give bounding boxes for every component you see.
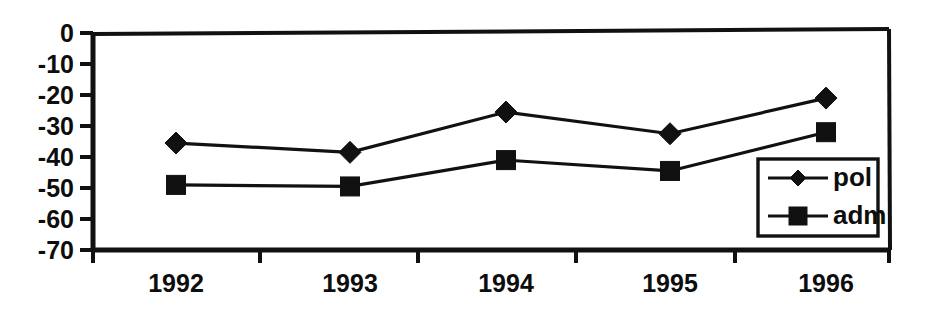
square-icon — [789, 207, 807, 225]
y-tick-label-2: -20 — [38, 81, 74, 109]
legend-label-adm: adm — [833, 200, 886, 230]
y-tick-label-3: -30 — [38, 112, 74, 140]
line-chart: 0 -10 -20 -30 -40 -50 -60 -70 1992 1993 … — [0, 0, 930, 320]
x-tick-label-1994: 1994 — [478, 269, 534, 297]
y-tick-label-5: -50 — [38, 174, 74, 202]
legend-label-pol: pol — [833, 162, 872, 192]
x-tick-label-1993: 1993 — [322, 269, 378, 297]
data-point-square — [661, 161, 680, 180]
data-point-square — [497, 151, 516, 170]
x-tick-label-1995: 1995 — [642, 269, 698, 297]
y-axis-tick-labels: 0 -10 -20 -30 -40 -50 -60 -70 — [38, 19, 74, 264]
data-point-square — [817, 123, 836, 142]
chart-canvas: 0 -10 -20 -30 -40 -50 -60 -70 1992 1993 … — [0, 0, 930, 320]
x-tick-label-1992: 1992 — [148, 269, 204, 297]
x-tick-label-1996: 1996 — [798, 269, 854, 297]
y-tick-label-4: -40 — [38, 143, 74, 171]
y-tick-label-7: -70 — [38, 236, 74, 264]
y-tick-label-1: -10 — [38, 50, 74, 78]
y-tick-label-6: -60 — [38, 205, 74, 233]
data-point-square — [341, 177, 360, 196]
data-point-square — [167, 175, 186, 194]
y-tick-label-0: 0 — [60, 19, 74, 47]
x-axis-tick-labels: 1992 1993 1994 1995 1996 — [148, 269, 854, 297]
legend: pol adm — [758, 159, 886, 236]
